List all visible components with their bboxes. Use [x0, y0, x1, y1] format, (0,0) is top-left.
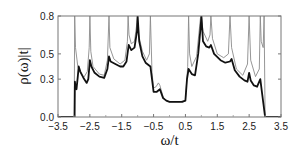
- y-axis: 0.00.30.50.8: [40, 11, 281, 123]
- x-axis-title: ω/t: [160, 132, 179, 148]
- x-tick-label: 2.5: [242, 121, 256, 132]
- x-tick-label: 1.5: [210, 121, 224, 132]
- x-tick-label: −1.5: [112, 121, 132, 132]
- x-tick-label: 0.5: [178, 121, 192, 132]
- y-tick-label: 0.8: [40, 11, 54, 22]
- y-axis-title: ρ(ω)|t|: [15, 47, 32, 85]
- x-tick-label: −0.5: [144, 121, 164, 132]
- series-line-thick: [58, 16, 281, 117]
- y-tick-label: 0.5: [40, 49, 54, 60]
- x-tick-label: −2.5: [80, 121, 100, 132]
- plot-area: [58, 16, 281, 117]
- y-tick-label: 0.3: [40, 74, 54, 85]
- chart: −3.5−2.5−1.5−0.50.51.52.53.5 0.00.30.50.…: [0, 0, 302, 155]
- y-tick-label: 0.0: [40, 112, 54, 123]
- x-tick-label: 3.5: [274, 121, 288, 132]
